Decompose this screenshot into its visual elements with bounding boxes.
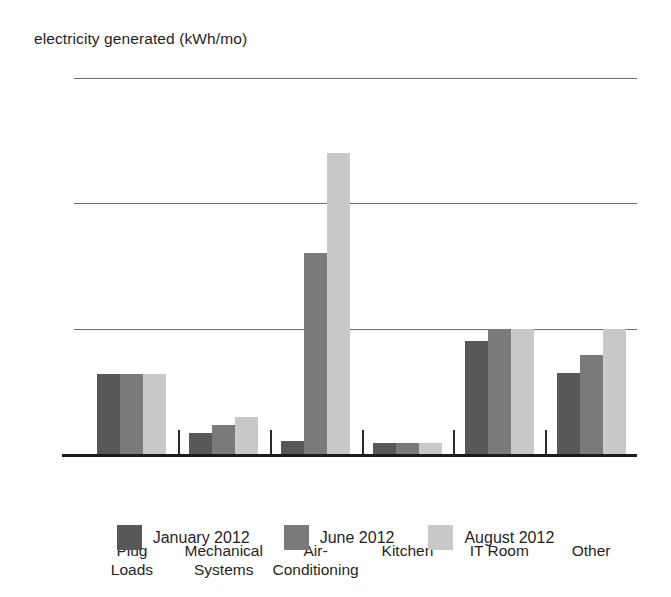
legend-swatch-icon [428,525,453,550]
legend-item[interactable]: June 2012 [284,525,395,550]
bar-group-bars [281,78,350,454]
legend-swatch-icon [117,525,142,550]
legend-item[interactable]: January 2012 [117,525,250,550]
bar[interactable] [189,433,212,454]
bar[interactable] [97,374,120,454]
bar[interactable] [557,373,580,454]
plot-area: 75,000 50,000 25,000 0 Plug LoadsMechani… [86,78,637,455]
bar-group-bars [465,78,534,454]
category-separator-tick [178,430,180,456]
bar[interactable] [511,329,534,454]
legend-swatch-icon [284,525,309,550]
bar[interactable] [281,441,304,454]
legend-label: January 2012 [153,529,250,547]
legend-item[interactable]: August 2012 [428,525,554,550]
x-axis-baseline [62,454,637,457]
bar-group-bars [97,78,166,454]
ytick-mark-50000 [74,203,86,204]
bar-chart-figure: electricity generated (kWh/mo) 75,000 50… [0,0,671,597]
category-separator-tick [545,430,547,456]
bar-group-bars [557,78,626,454]
category-separator-tick [362,430,364,456]
bar-group [373,78,442,454]
bar[interactable] [580,355,603,454]
bar-group [97,78,166,454]
bar[interactable] [327,153,350,454]
bar[interactable] [120,374,143,454]
chart-axis-title: electricity generated (kWh/mo) [34,30,247,48]
gridline-50000 [86,203,637,204]
gridline-75000 [86,78,637,79]
bar[interactable] [603,329,626,454]
bar[interactable] [304,253,327,454]
bar[interactable] [396,443,419,454]
bar-group [189,78,258,454]
bar[interactable] [235,417,258,454]
legend-label: August 2012 [464,529,554,547]
bar[interactable] [212,425,235,454]
bar-group [281,78,350,454]
bar[interactable] [488,329,511,454]
bar-group [465,78,534,454]
category-separator-tick [270,430,272,456]
legend-label: June 2012 [320,529,395,547]
ytick-mark-25000 [74,329,86,330]
ytick-mark-75000 [74,78,86,79]
category-separator-tick [453,430,455,456]
bar-group [557,78,626,454]
bar[interactable] [373,443,396,454]
gridline-25000 [86,329,637,330]
chart-legend: January 2012June 2012August 2012 [0,525,671,550]
bar[interactable] [143,374,166,454]
bar-group-bars [373,78,442,454]
bar[interactable] [419,443,442,454]
bar-group-bars [189,78,258,454]
bar[interactable] [465,341,488,454]
